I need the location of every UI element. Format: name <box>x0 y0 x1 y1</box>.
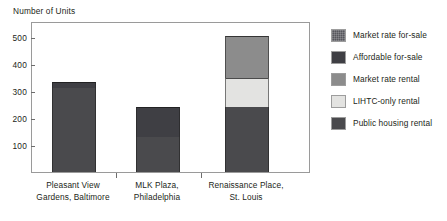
legend-swatch-icon <box>331 73 346 86</box>
y-axis-title: Number of Units <box>13 6 75 16</box>
legend-item-2[interactable]: Affordable for-sale <box>331 46 447 68</box>
chart-figure: Number of Units 100200300400500 Market r… <box>0 0 447 221</box>
y-axis-tick-mark <box>31 146 35 147</box>
legend-item-3[interactable]: Market rate rental <box>331 68 447 90</box>
x-axis-tick-mark <box>201 173 202 178</box>
x-axis-category-label: Renaissance Place,St. Louis <box>186 180 306 203</box>
legend-item-1[interactable]: Market rate for-sale <box>331 24 447 46</box>
y-axis-tick-label: 400 <box>13 60 27 70</box>
bars-container <box>32 23 309 172</box>
y-axis-tick-mark <box>31 119 35 120</box>
legend-label: Public housing rental <box>353 118 432 128</box>
legend-label: Market rate rental <box>353 74 420 84</box>
y-axis-tick-label: 500 <box>13 33 27 43</box>
bar-1[interactable] <box>52 82 96 172</box>
legend-item-4[interactable]: LIHTC-only rental <box>331 90 447 112</box>
bar-segment <box>136 137 180 172</box>
y-axis-tick-label: 100 <box>13 141 27 151</box>
bar-segment <box>52 82 96 89</box>
legend-label: LIHTC-only rental <box>353 96 420 106</box>
bar-segment <box>52 88 96 172</box>
y-axis-tick-labels: 100200300400500 <box>0 22 27 173</box>
bar-3[interactable] <box>225 36 269 172</box>
legend-swatch-icon <box>331 29 346 42</box>
legend-swatch-icon <box>331 51 346 64</box>
chart-legend: Market rate for-saleAffordable for-saleM… <box>331 24 447 134</box>
bar-segment <box>225 36 269 78</box>
legend-label: Affordable for-sale <box>353 52 423 62</box>
bar-2[interactable] <box>136 107 180 172</box>
legend-swatch-icon <box>331 95 346 108</box>
bar-segment <box>225 107 269 172</box>
plot-area <box>31 22 310 173</box>
y-axis-tick-label: 300 <box>13 87 27 97</box>
y-axis-tick-mark <box>31 65 35 66</box>
legend-swatch-icon <box>331 117 346 130</box>
bar-segment <box>136 107 180 137</box>
x-axis-tick-mark <box>116 173 117 178</box>
y-axis-tick-mark <box>31 92 35 93</box>
legend-label: Market rate for-sale <box>353 30 427 40</box>
bar-segment <box>225 78 269 108</box>
legend-item-5[interactable]: Public housing rental <box>331 112 447 134</box>
y-axis-tick-mark <box>31 38 35 39</box>
y-axis-tick-label: 200 <box>13 114 27 124</box>
